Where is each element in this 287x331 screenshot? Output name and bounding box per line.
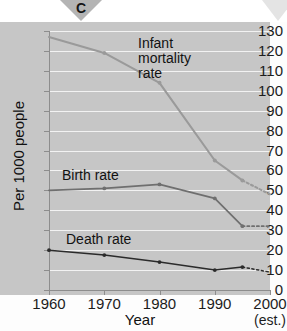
series-line (49, 184, 242, 226)
series-label-birth-rate: Birth rate (62, 168, 119, 183)
series-data-point (240, 178, 244, 182)
series-data-point (102, 253, 106, 257)
series-data-point (241, 265, 245, 269)
series-data-point (213, 268, 217, 272)
series-label-infant-mortality: Infant mortality rate (138, 36, 191, 81)
series-data-point (213, 159, 217, 163)
series-data-point (102, 187, 106, 191)
chart-axes-layer: 0102030405060708090100110120130 19601970… (0, 0, 287, 331)
series-label-death-rate: Death rate (66, 232, 131, 247)
series-label-infant-line1: Infant (138, 36, 191, 51)
series-data-point (47, 248, 51, 252)
series-label-infant-line2: mortality (138, 51, 191, 66)
series-data-point (158, 260, 162, 264)
series-label-infant-line3: rate (138, 66, 191, 81)
series-data-point (158, 81, 162, 85)
series-data-point (158, 183, 162, 187)
series-data-point (241, 224, 245, 228)
series-data-point (213, 197, 217, 201)
series-data-point (102, 51, 106, 55)
series-line (49, 250, 242, 270)
series-line-projected (242, 267, 270, 272)
series-line-projected (242, 180, 270, 194)
